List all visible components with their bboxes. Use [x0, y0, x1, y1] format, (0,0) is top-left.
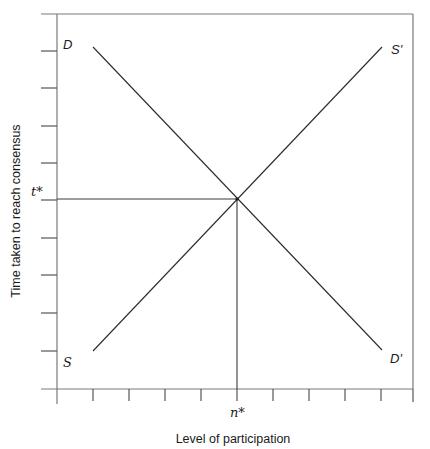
label-D-prime: D'	[390, 351, 402, 366]
label-S-prime: S'	[391, 42, 403, 57]
x-axis-title: Level of participation	[176, 432, 291, 446]
label-D: D	[63, 37, 72, 52]
label-S: S	[63, 355, 72, 370]
y-axis-ticks	[41, 51, 57, 351]
label-t-star: t*	[31, 184, 43, 199]
y-axis-title: Time taken to reach consensus	[9, 124, 23, 297]
consensus-diagram: D S' S D' t* n* Level of participation T…	[0, 0, 430, 449]
equilibrium-point	[235, 197, 238, 200]
label-n-star: n*	[230, 405, 245, 420]
x-axis-ticks	[93, 389, 413, 402]
